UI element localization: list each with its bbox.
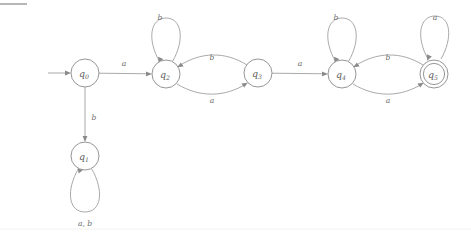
edge-label-q1-self: a, b [78, 219, 92, 228]
edge-label-q5-self: a [433, 13, 438, 22]
edge-label-q4-q5: a [386, 96, 391, 105]
edge-q0-q1: b [83, 87, 97, 142]
edge-q4-q5-a: a [353, 83, 424, 105]
edge-label-q2-self: b [158, 13, 163, 22]
edge-q2-self: b [152, 13, 180, 64]
edge-q3-q2-b: b [177, 53, 247, 68]
edge-q5-self: a [421, 13, 449, 61]
state-q5-accepting[interactable]: q5 [420, 60, 448, 88]
state-q3[interactable]: q3 [244, 59, 272, 87]
state-subscript-q5: 5 [434, 74, 438, 81]
state-q1[interactable]: q1 [71, 142, 99, 170]
state-subscript-q2: 2 [165, 74, 170, 81]
edge-label-q3-q4: a [298, 59, 303, 68]
edge-q3-q4: a [272, 59, 328, 77]
edge-q0-q2: a [99, 59, 152, 77]
automaton-canvas: a b a, b b a b [0, 0, 471, 236]
state-subscript-q1: 1 [85, 156, 89, 163]
edge-q5-q4-b: b [353, 53, 423, 68]
edge-q4-self: b [328, 13, 356, 64]
edge-label-q5-q4: b [386, 53, 391, 62]
state-q0[interactable]: q0 [71, 59, 99, 87]
edge-label-q0-q1: b [92, 113, 97, 122]
state-q2[interactable]: q2 [152, 60, 180, 88]
edge-q2-q3-a: a [177, 83, 248, 105]
state-subscript-q4: 4 [341, 74, 346, 81]
automaton-diagram: a b a, b b a b [0, 0, 471, 236]
edge-q1-self: a, b [70, 167, 99, 228]
edge-label-q4-self: b [334, 13, 339, 22]
edge-label-q3-q2: b [210, 53, 215, 62]
state-subscript-q0: 0 [85, 73, 89, 80]
edge-label-q0-q2: a [122, 59, 127, 68]
edge-label-q2-q3: a [210, 96, 215, 105]
start-arrow [48, 71, 71, 76]
state-q4[interactable]: q4 [328, 60, 356, 88]
state-subscript-q3: 3 [258, 73, 262, 80]
